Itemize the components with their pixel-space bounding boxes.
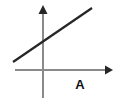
figure-container: A: [0, 0, 124, 103]
line-a-label: A: [75, 77, 85, 92]
coordinate-diagram: A: [0, 0, 124, 103]
figure-background: [0, 0, 124, 103]
